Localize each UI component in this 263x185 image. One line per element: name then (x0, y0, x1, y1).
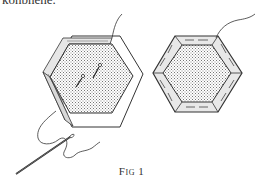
figure-caption: Fig 1 (0, 165, 263, 177)
pinned-hexagon (43, 14, 143, 127)
tacked-hexagon (153, 14, 255, 112)
hexagon-illustration (0, 0, 263, 185)
